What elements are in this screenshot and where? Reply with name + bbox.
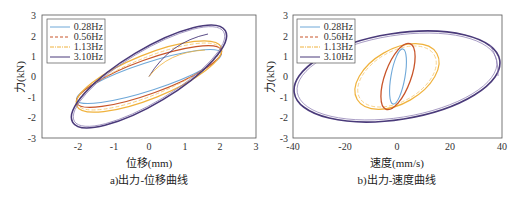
svg-text:2: 2	[31, 31, 36, 42]
chart-force-velocity: 3 2 1 0 -1 -2 -3 -40 -20 0 20 40 速度(mm/s…	[264, 10, 507, 187]
svg-text:40: 40	[497, 141, 507, 152]
svg-text:0: 0	[283, 71, 288, 82]
svg-text:3: 3	[31, 10, 36, 21]
svg-text:1: 1	[283, 51, 288, 62]
svg-text:-1: -1	[28, 92, 36, 103]
svg-text:-1: -1	[110, 141, 118, 152]
figure: 3 2 1 0 -1 -2 -3 -2 -1 0 1 2 3 位移(mm) 力(…	[0, 0, 519, 199]
x-label-left: 位移(mm)	[126, 156, 173, 170]
series-0.56hz-right	[374, 39, 422, 114]
svg-text:0: 0	[31, 71, 36, 82]
caption-a: a)出力-位移曲线	[110, 173, 188, 187]
x-axis-right: -40 -20 0 20 40	[286, 141, 507, 152]
svg-text:1: 1	[183, 141, 188, 152]
caption-b: b)出力-速度曲线	[358, 173, 437, 187]
svg-text:1: 1	[31, 51, 36, 62]
svg-text:0: 0	[147, 141, 152, 152]
svg-text:3.10Hz: 3.10Hz	[74, 51, 104, 62]
svg-text:0: 0	[395, 141, 400, 152]
y-label-right: 力(kN)	[264, 61, 277, 93]
svg-text:-2: -2	[74, 141, 82, 152]
svg-text:2: 2	[218, 141, 223, 152]
x-axis-left: -2 -1 0 1 2 3	[74, 141, 259, 152]
svg-text:20: 20	[445, 141, 455, 152]
svg-text:-3: -3	[28, 133, 36, 144]
y-axis-right: 3 2 1 0 -1 -2 -3	[280, 10, 288, 144]
x-label-right: 速度(mm/s)	[370, 156, 424, 170]
svg-text:-1: -1	[280, 92, 288, 103]
svg-text:3.10Hz: 3.10Hz	[324, 51, 354, 62]
series-1.13hz-right	[344, 30, 451, 123]
svg-text:-2: -2	[280, 112, 288, 123]
y-label-left: 力(kN)	[14, 61, 27, 93]
svg-text:3: 3	[283, 10, 288, 21]
y-axis-left: 3 2 1 0 -1 -2 -3	[28, 10, 36, 144]
svg-text:-20: -20	[338, 141, 351, 152]
chart-force-displacement: 3 2 1 0 -1 -2 -3 -2 -1 0 1 2 3 位移(mm) 力(…	[14, 8, 259, 187]
series-0.28hz-right	[386, 48, 410, 106]
svg-text:-2: -2	[28, 112, 36, 123]
legend-left: 0.28Hz 0.56Hz 1.13Hz 3.10Hz	[47, 19, 105, 63]
svg-text:3: 3	[254, 141, 259, 152]
svg-text:2: 2	[283, 31, 288, 42]
svg-text:-40: -40	[286, 141, 299, 152]
legend-right: 0.28Hz 0.56Hz 1.13Hz 3.10Hz	[297, 19, 355, 63]
